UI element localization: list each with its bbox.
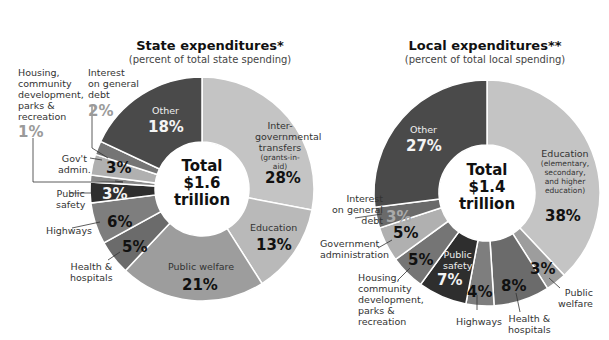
local-label-highways: Highways xyxy=(456,316,502,327)
local-label-interest: Interest on general debt xyxy=(325,193,383,226)
local-total-unit: trillion xyxy=(450,196,524,213)
label-line: Interest xyxy=(325,193,383,204)
label-line: parks & xyxy=(18,100,84,111)
state-total-unit: trillion xyxy=(165,192,239,209)
label-line: admin. xyxy=(58,164,91,175)
label-line: development, xyxy=(358,294,424,305)
local-label-housing: Housing, community development, parks & … xyxy=(358,272,424,327)
label-line: debt xyxy=(325,215,383,226)
label-line: community xyxy=(18,78,84,89)
local-total-label: Total xyxy=(450,162,524,179)
state-chart-subtitle: (percent of total state spending) xyxy=(120,54,300,65)
local-chart-subtitle: (percent of total local spending) xyxy=(395,54,575,65)
label-line: welfare xyxy=(558,298,593,309)
state-label-housing: Housing, community development, parks & … xyxy=(18,67,84,122)
state-pct-education: 13% xyxy=(256,236,292,254)
local-pct-welfare: 3% xyxy=(530,260,555,278)
label-line: safety xyxy=(56,199,85,210)
local-pct-admin: 5% xyxy=(393,224,418,242)
state-label-other: Other xyxy=(152,105,179,116)
label-line: Gov't xyxy=(58,153,91,164)
label-line: secondary, xyxy=(536,168,594,177)
state-label-welfare: Public welfare xyxy=(168,261,234,272)
local-label-admin: Government administration xyxy=(320,238,389,260)
label-line: recreation xyxy=(358,316,424,327)
state-label-safety: Public safety xyxy=(56,188,85,210)
local-label-education: Education (elementary, secondary, and hi… xyxy=(536,148,594,195)
local-label-safety: Public safety xyxy=(443,249,472,271)
state-label-admin: Gov't admin. xyxy=(58,153,91,175)
label-line: hospitals xyxy=(70,272,113,283)
local-pct-education: 38% xyxy=(545,207,581,225)
label-line: parks & xyxy=(358,305,424,316)
label-line: Housing, xyxy=(358,272,424,283)
state-pct-other: 18% xyxy=(148,118,184,136)
label-line: development, xyxy=(18,89,84,100)
label-line: Interest xyxy=(88,67,139,78)
label-line: on general xyxy=(325,204,383,215)
state-pct-highways: 6% xyxy=(107,213,132,231)
label-line: Public xyxy=(443,249,472,260)
label-line: education) xyxy=(536,186,594,195)
state-pct-safety: 3% xyxy=(102,185,127,203)
state-total-label: Total xyxy=(165,158,239,175)
state-pct-igt: 28% xyxy=(265,169,301,187)
state-label-highways: Highways xyxy=(46,225,92,236)
local-pct-safety: 7% xyxy=(437,271,462,289)
state-pct-interest: 2% xyxy=(88,102,113,120)
label-line: governmental xyxy=(255,131,305,142)
label-line: safety xyxy=(443,260,472,271)
state-pct-housing: 1% xyxy=(18,123,43,141)
label-line: hospitals xyxy=(508,324,551,335)
label-line: Health & xyxy=(70,261,113,272)
local-pct-housing: 5% xyxy=(408,251,433,269)
local-pct-interest: 3% xyxy=(386,208,411,226)
label-line: administration xyxy=(320,249,389,260)
label-line: Public xyxy=(56,188,85,199)
state-pct-admin: 3% xyxy=(106,159,131,177)
label-line: debt xyxy=(88,89,139,100)
label-line: Health & xyxy=(508,313,551,324)
label-line: Education xyxy=(536,148,594,159)
state-pct-health: 5% xyxy=(122,238,147,256)
label-line: Housing, xyxy=(18,67,84,78)
label-line: Government xyxy=(320,238,389,249)
state-total-amount: $1.6 xyxy=(165,175,239,192)
label-line: on general xyxy=(88,78,139,89)
label-line: (elementary, xyxy=(536,159,594,168)
local-chart-title: Local expenditures** xyxy=(405,38,565,53)
local-total-amount: $1.4 xyxy=(450,179,524,196)
local-pct-other: 27% xyxy=(406,137,442,155)
state-center-total: Total $1.6 trillion xyxy=(165,158,239,209)
state-label-igt: Inter- governmental transfers (grants-in… xyxy=(255,120,305,171)
label-line: and higher xyxy=(536,177,594,186)
local-pct-highways: 4% xyxy=(467,283,492,301)
label-line: recreation xyxy=(18,111,84,122)
state-chart-title: State expenditures* xyxy=(130,38,290,53)
label-line: Inter- xyxy=(255,120,305,131)
local-center-total: Total $1.4 trillion xyxy=(450,162,524,213)
local-label-welfare: Public welfare xyxy=(558,287,593,309)
label-line: transfers xyxy=(255,142,305,153)
state-pct-welfare: 21% xyxy=(182,276,218,294)
label-line: Public xyxy=(558,287,593,298)
local-pct-health: 8% xyxy=(501,277,526,295)
label-line: community xyxy=(358,283,424,294)
local-label-health: Health & hospitals xyxy=(508,313,551,335)
state-label-interest: Interest on general debt xyxy=(88,67,139,100)
state-label-health: Health & hospitals xyxy=(70,261,113,283)
local-label-other: Other xyxy=(410,124,437,135)
state-label-education: Education xyxy=(250,222,297,233)
